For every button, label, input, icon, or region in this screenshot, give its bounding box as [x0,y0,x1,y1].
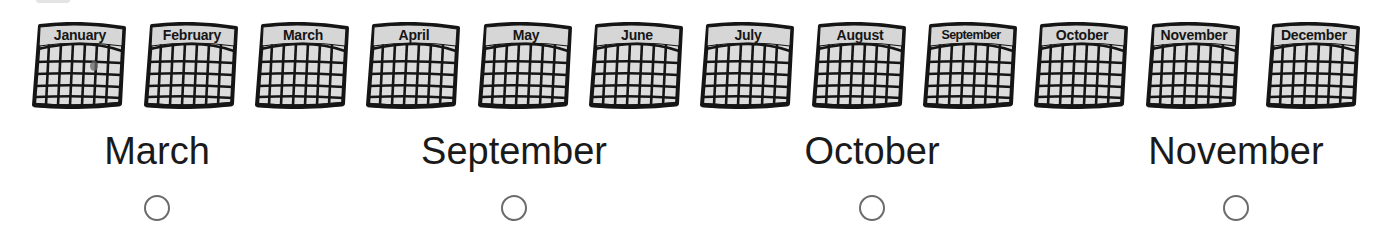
option-october[interactable]: October [752,120,992,230]
calendar-june: June [587,22,685,109]
calendar-april: April [364,22,462,109]
calendar-december: December [1264,22,1362,109]
answer-options: March September October November [0,120,1381,252]
calendar-month-label: July [706,27,790,43]
option-label[interactable]: September [394,129,634,173]
option-march[interactable]: March [37,120,277,230]
calendar-month-label: May [484,27,568,43]
calendar-month-label: September [929,27,1013,43]
calendar-november: November [1144,22,1242,109]
calendar-strip: January February March April May June Ju… [0,0,1381,120]
option-label[interactable]: October [752,129,992,173]
calendar-month-label: August [818,27,902,43]
calendar-month-label: February [150,27,234,43]
calendar-month-label: November [1152,27,1236,43]
calendar-month-label: January [38,27,122,43]
calendar-month-label: December [1272,27,1356,43]
calendar-month-label: June [595,27,679,43]
radio-button[interactable] [144,195,170,221]
radio-button[interactable] [501,195,527,221]
calendar-january: January [30,22,128,109]
calendar-october: October [1032,22,1130,109]
calendar-august: August [810,22,908,109]
calendar-february: February [142,22,240,109]
calendar-may: May [476,22,574,109]
option-november[interactable]: November [1116,120,1356,230]
calendar-month-label: October [1040,27,1124,43]
calendar-month-label: March [261,27,345,43]
calendar-month-label: April [372,27,456,43]
radio-button[interactable] [859,195,885,221]
option-label[interactable]: November [1116,129,1356,173]
calendar-july: July [698,22,796,109]
option-september[interactable]: September [394,120,634,230]
radio-button[interactable] [1223,195,1249,221]
calendar-september: September [921,22,1019,109]
calendar-march: March [253,22,351,109]
option-label[interactable]: March [37,129,277,173]
